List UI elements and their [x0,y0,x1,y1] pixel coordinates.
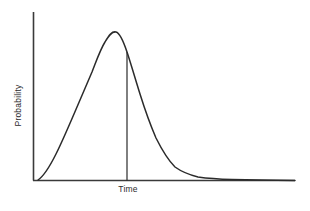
chart-canvas [0,0,310,211]
y-axis-label: Probability [11,0,25,211]
x-axis-label: Time [78,184,178,194]
probability-distribution-chart: Probability Time [0,0,310,211]
chart-background [0,0,310,211]
